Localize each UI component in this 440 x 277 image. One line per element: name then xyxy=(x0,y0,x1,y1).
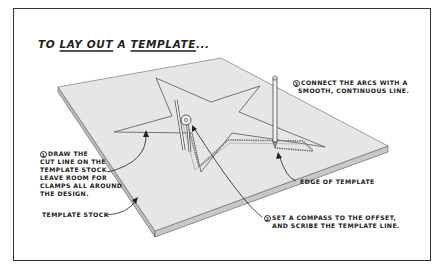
pencil xyxy=(273,76,277,148)
step-number-badge: 2 xyxy=(264,215,271,222)
callout-step-1: 1DRAW THE CUT LINE ON THE TEMPLATE STOCK… xyxy=(40,150,122,198)
callout-step-3: 3CONNECT THE ARCS WITH A SMOOTH, CONTINU… xyxy=(293,79,409,95)
template-stock-label: TEMPLATE STOCK xyxy=(42,211,109,219)
page-title: TO LAY OUT A TEMPLATE... xyxy=(38,38,210,50)
step-number-badge: 3 xyxy=(293,80,300,87)
step-number-badge: 1 xyxy=(40,151,47,158)
edge-of-template-label: EDGE OF TEMPLATE xyxy=(300,178,375,186)
callout-step-2: 2SET A COMPASS TO THE OFFSET, AND SCRIBE… xyxy=(264,214,400,230)
